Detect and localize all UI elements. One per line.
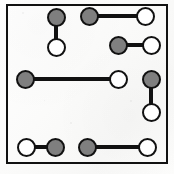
node-circle-gray[interactable] (16, 70, 35, 89)
node-circle-white[interactable] (142, 103, 161, 122)
node-circle-white[interactable] (47, 38, 66, 57)
node-circle-gray[interactable] (78, 138, 97, 157)
node-circle-gray[interactable] (80, 7, 99, 26)
pair-connector-bar (25, 77, 118, 81)
node-circle-gray[interactable] (46, 138, 65, 157)
node-circle-white[interactable] (138, 138, 157, 157)
diagram-canvas (0, 0, 174, 174)
node-circle-gray[interactable] (109, 36, 128, 55)
node-circle-gray[interactable] (47, 8, 66, 27)
node-circle-gray[interactable] (142, 70, 161, 89)
node-circle-white[interactable] (109, 70, 128, 89)
node-circle-white[interactable] (142, 36, 161, 55)
node-circle-white[interactable] (17, 138, 36, 157)
node-circle-white[interactable] (136, 7, 155, 26)
